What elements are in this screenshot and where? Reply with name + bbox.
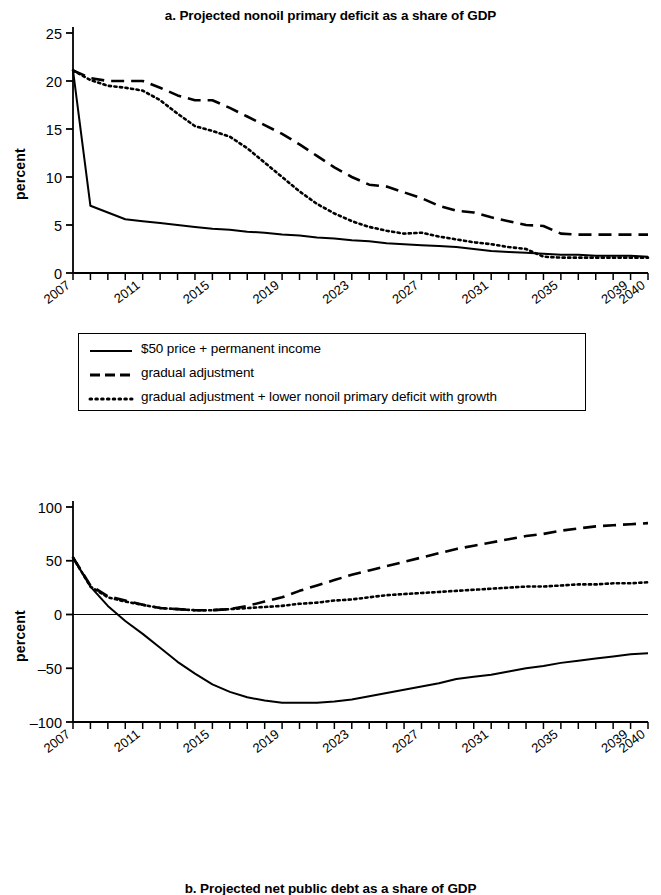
svg-text:25: 25	[46, 26, 62, 42]
svg-text:2015: 2015	[180, 726, 212, 755]
svg-text:2011: 2011	[111, 726, 142, 755]
panel-a-nonoil-primary-deficit: a. Projected nonoil primary deficit as a…	[0, 0, 661, 420]
svg-text:20: 20	[46, 74, 62, 90]
legend-item: $50 price + permanent income	[79, 334, 585, 363]
panel-b-title: b. Projected net public debt as a share …	[0, 881, 661, 895]
svg-text:2007: 2007	[41, 277, 73, 306]
svg-text:100: 100	[38, 500, 62, 516]
legend-item-label: gradual adjustment	[141, 363, 254, 383]
legend-item-label: gradual adjustment + lower nonoil primar…	[141, 387, 497, 407]
svg-text:2019: 2019	[250, 726, 282, 755]
svg-text:2035: 2035	[529, 277, 561, 306]
svg-text:2027: 2027	[389, 726, 421, 755]
svg-text:–50: –50	[38, 661, 62, 677]
svg-text:2007: 2007	[41, 726, 73, 755]
svg-text:2023: 2023	[319, 726, 351, 755]
svg-text:2027: 2027	[389, 277, 421, 306]
legend-item-label: $50 price + permanent income	[141, 339, 321, 359]
svg-text:2019: 2019	[250, 277, 282, 306]
svg-text:2031: 2031	[459, 277, 491, 306]
panel-b-net-public-debt: b. Projected net public debt as a share …	[0, 432, 661, 895]
legend-swatch-dashed-icon	[88, 363, 134, 383]
panel-a-svg: 0510152025200720112015201920232027203120…	[0, 0, 661, 330]
legend-swatch-dotted-icon	[88, 387, 134, 407]
legend-swatch-solid-icon	[88, 339, 134, 359]
svg-text:2035: 2035	[529, 726, 561, 755]
series-line-dotted	[73, 558, 648, 611]
series-line-dotted	[73, 70, 648, 257]
svg-text:2015: 2015	[180, 277, 212, 306]
series-line-solid	[73, 558, 648, 703]
svg-text:2023: 2023	[319, 277, 351, 306]
svg-text:15: 15	[46, 122, 62, 138]
legend-item: gradual adjustment + lower nonoil primar…	[79, 387, 585, 411]
series-line-dashed	[73, 70, 648, 234]
legend-item: gradual adjustment	[79, 363, 585, 387]
svg-text:2031: 2031	[459, 726, 491, 755]
svg-text:2011: 2011	[111, 277, 142, 306]
svg-text:–100: –100	[30, 715, 62, 731]
panel-b-y-axis-label: percent	[12, 610, 28, 662]
panel-b-svg: –100–50050100200720112015201920232027203…	[0, 464, 661, 764]
svg-text:5: 5	[54, 218, 62, 234]
svg-text:0: 0	[54, 607, 62, 623]
panel-a-plot-area: 0510152025200720112015201920232027203120…	[0, 0, 661, 330]
panel-a-legend: $50 price + permanent incomegradual adju…	[78, 333, 586, 411]
svg-text:50: 50	[46, 553, 62, 569]
svg-text:10: 10	[46, 170, 62, 186]
